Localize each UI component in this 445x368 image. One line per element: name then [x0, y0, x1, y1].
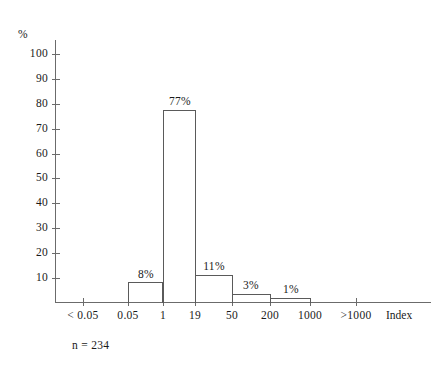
histogram-bar-11 — [195, 275, 233, 303]
y-tick-100 — [52, 54, 60, 55]
histogram-bar-77 — [163, 110, 196, 303]
x-tick-label-gt1000: >1000 — [329, 309, 383, 322]
x-tick-lt005 — [83, 298, 84, 306]
histogram-bar-8 — [128, 282, 163, 303]
y-tick-label-20: 20 — [16, 247, 48, 259]
y-tick-60 — [52, 154, 60, 155]
y-tick-label-50: 50 — [16, 172, 48, 184]
y-tick-label-100: 100 — [16, 48, 48, 60]
x-tick-label-19: 19 — [178, 309, 212, 322]
y-tick-70 — [52, 129, 60, 130]
bar-label-77: 77% — [159, 95, 201, 107]
histogram-bar-3 — [232, 294, 271, 303]
bar-label-8: 8% — [126, 268, 166, 280]
y-tick-80 — [52, 104, 60, 105]
x-tick-label-50: 50 — [215, 309, 249, 322]
x-tick-label-200: 200 — [249, 309, 291, 322]
bar-label-3: 3% — [231, 279, 271, 291]
histogram-figure: % 100 90 80 70 60 50 40 30 20 10 < 0.05 … — [0, 0, 445, 368]
histogram-bar-1 — [270, 298, 311, 303]
y-tick-20 — [52, 253, 60, 254]
y-tick-10 — [52, 278, 60, 279]
x-tick-label-1: 1 — [148, 309, 178, 322]
y-tick-50 — [52, 178, 60, 179]
y-tick-30 — [52, 228, 60, 229]
y-tick-label-30: 30 — [16, 222, 48, 234]
y-tick-label-60: 60 — [16, 148, 48, 160]
x-tick-gt1000 — [356, 298, 357, 306]
sample-size-note: n = 234 — [72, 339, 109, 352]
x-tick-label-1000: 1000 — [287, 309, 333, 322]
y-tick-label-40: 40 — [16, 197, 48, 209]
bar-label-1: 1% — [271, 283, 311, 295]
y-tick-90 — [52, 79, 60, 80]
y-tick-40 — [52, 203, 60, 204]
y-tick-label-90: 90 — [16, 73, 48, 85]
y-axis-title: % — [18, 28, 28, 40]
y-tick-label-80: 80 — [16, 98, 48, 110]
y-tick-label-70: 70 — [16, 123, 48, 135]
x-axis-title: Index — [386, 309, 412, 322]
y-tick-label-10: 10 — [16, 272, 48, 284]
x-tick-label-005: 0.05 — [103, 309, 153, 322]
bar-label-11: 11% — [193, 260, 235, 272]
